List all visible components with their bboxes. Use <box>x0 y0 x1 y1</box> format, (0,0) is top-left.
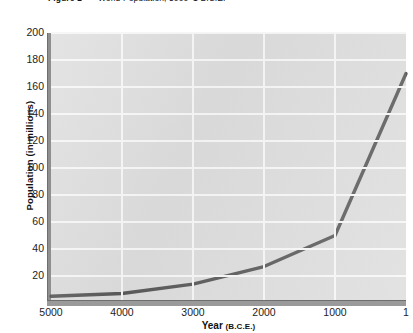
y-tick-label: 140 <box>4 107 44 119</box>
y-tick-label: 120 <box>4 134 44 146</box>
y-axis-tick-labels: 20406080100120140160180200 <box>0 0 44 333</box>
gridline-horizontal <box>51 86 406 88</box>
gridline-vertical <box>263 33 265 303</box>
y-tick-label: 180 <box>4 53 44 65</box>
population-data-line <box>51 74 406 297</box>
x-tick-label: 1 <box>379 306 413 318</box>
y-tick-label: 200 <box>4 26 44 38</box>
gridline-vertical <box>192 33 194 303</box>
x-axis-title-text: Year <box>202 320 223 331</box>
y-tick-label: 100 <box>4 161 44 173</box>
x-tick-label: 2000 <box>237 306 291 318</box>
x-axis-title-unit: (B.C.E.) <box>226 322 256 331</box>
gridline-horizontal <box>51 32 406 34</box>
y-tick-label: 20 <box>4 269 44 281</box>
gridline-horizontal <box>51 59 406 61</box>
x-tick-label: 4000 <box>95 306 149 318</box>
plot-area <box>51 33 406 303</box>
gridline-horizontal <box>51 113 406 115</box>
x-tick-label: 3000 <box>166 306 220 318</box>
gridline-horizontal <box>51 167 406 169</box>
gridline-horizontal <box>51 140 406 142</box>
y-tick-label: 80 <box>4 188 44 200</box>
gridline-horizontal <box>51 248 406 250</box>
gridline-vertical <box>334 33 336 303</box>
gridline-vertical <box>121 33 123 303</box>
gridline-horizontal <box>51 275 406 277</box>
y-tick-label: 40 <box>4 242 44 254</box>
gridline-horizontal <box>51 194 406 196</box>
x-tick-label: 1000 <box>308 306 362 318</box>
x-tick-label: 5000 <box>24 306 78 318</box>
y-tick-label: 160 <box>4 80 44 92</box>
population-line-chart: Population (in millions) 204060801001201… <box>0 0 413 333</box>
gridline-horizontal <box>51 221 406 223</box>
x-axis-title: Year (B.C.E.) <box>51 320 406 331</box>
y-tick-label: 60 <box>4 215 44 227</box>
